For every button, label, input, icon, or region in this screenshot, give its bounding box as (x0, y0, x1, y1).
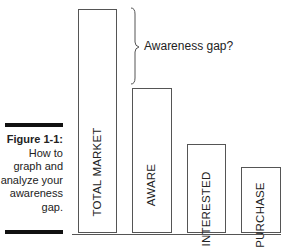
bar-interested: INTERESTED (187, 144, 226, 233)
caption-top-rule (5, 123, 63, 127)
figure-caption: Figure 1-1: How to graph and analyze you… (0, 133, 63, 214)
curly-brace-icon (129, 6, 141, 86)
awareness-gap-annotation: Awareness gap? (144, 39, 233, 53)
bar-total-market: TOTAL MARKET (78, 9, 117, 233)
bar-label: TOTAL MARKET (91, 127, 103, 216)
caption-line: analyze your (0, 174, 63, 188)
figure-number: Figure 1-1: (0, 133, 63, 147)
caption-line: graph and (0, 160, 63, 174)
bar-label: PURCHASE (254, 182, 266, 248)
caption-line: awareness (0, 187, 63, 201)
caption-line: How to (0, 147, 63, 161)
caption-bottom-rule (5, 230, 63, 234)
bar-aware: AWARE (132, 88, 172, 233)
bar-label: AWARE (145, 164, 157, 206)
bar-label: INTERESTED (200, 172, 212, 247)
x-axis-baseline (72, 234, 281, 235)
bar-purchase: PURCHASE (241, 167, 281, 233)
caption-line: gap. (0, 201, 63, 215)
